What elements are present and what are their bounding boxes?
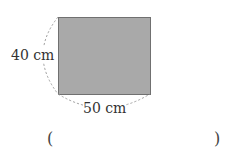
height-label: 40 cm <box>11 47 54 63</box>
shaded-rectangle <box>59 18 151 95</box>
width-label: 50 cm <box>83 100 126 116</box>
answer-close-paren: ) <box>214 130 220 148</box>
answer-blank[interactable] <box>60 130 210 148</box>
answer-open-paren: ( <box>47 130 53 148</box>
